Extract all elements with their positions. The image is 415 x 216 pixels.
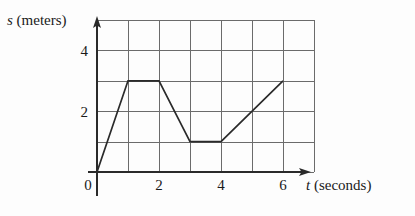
x-axis <box>88 168 311 176</box>
y-tick-label-2: 2 <box>62 105 88 120</box>
graph-figure: s (meters) t (seconds) 4 2 0 2 4 6 <box>0 0 415 216</box>
x-tick-label-0: 0 <box>78 178 98 193</box>
x-tick-label-6: 6 <box>273 178 293 193</box>
y-axis-title: s (meters) <box>7 13 67 28</box>
x-tick-label-4: 4 <box>211 178 231 193</box>
grid-horizontal-lines <box>97 20 314 172</box>
x-axis-title: t (seconds) <box>306 178 371 193</box>
x-axis-units: (seconds) <box>310 177 371 193</box>
y-axis-units: (meters) <box>13 12 67 28</box>
y-tick-label-4: 4 <box>62 44 88 59</box>
y-axis <box>93 16 101 196</box>
x-tick-label-2: 2 <box>149 178 169 193</box>
grid-vertical-lines <box>97 20 314 172</box>
